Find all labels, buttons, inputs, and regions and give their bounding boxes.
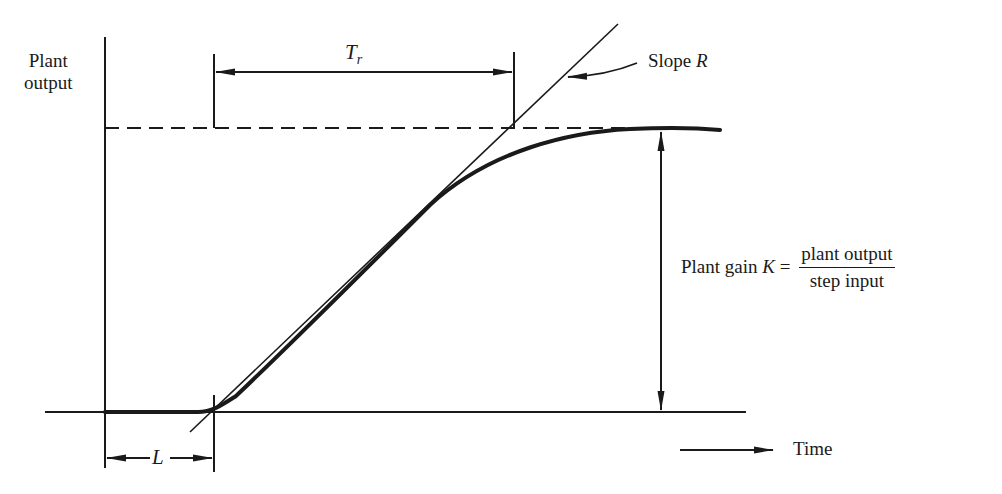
rise-time-label: Tr [345, 40, 362, 68]
gain-equals: = [775, 256, 795, 277]
gain-numerator: plant output [799, 243, 894, 268]
gain-symbol: K [762, 256, 775, 277]
rise-time-dimension [214, 52, 514, 128]
gain-fraction: plant outputstep input [799, 243, 894, 292]
slope-leader-arrow [568, 63, 637, 77]
response-curve [105, 128, 720, 412]
slope-label: Slope R [648, 50, 708, 72]
rise-time-subscript: r [357, 52, 362, 67]
slope-label-text: Slope [648, 50, 696, 71]
gain-formula: Plant gain K = plant outputstep input [681, 243, 895, 292]
dead-time-label: L [152, 445, 164, 469]
time-axis-label: Time [793, 438, 832, 460]
gain-label-text: Plant gain [681, 256, 762, 277]
slope-symbol: R [696, 50, 708, 71]
reaction-curve-diagram: Plant output Tr Slope R Plant gain K = p… [0, 0, 1002, 494]
y-axis-label: Plant output [24, 50, 73, 94]
rise-time-symbol: T [345, 40, 357, 64]
y-axis-label-line2: output [24, 72, 73, 94]
y-axis-label-line1: Plant [24, 50, 73, 72]
tangent-line-slope-R [190, 24, 618, 432]
gain-denominator: step input [810, 268, 884, 292]
